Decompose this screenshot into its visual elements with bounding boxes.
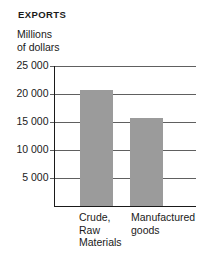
x-axis-line [54, 206, 197, 207]
x-label-crude-line-1: Crude, [79, 211, 122, 224]
y-axis-unit-line-2: of dollars [17, 41, 60, 54]
x-label-manufactured-goods: Manufactured goods [131, 211, 195, 236]
x-label-crude-raw-materials: Crude, Raw Materials [79, 211, 122, 249]
gridline-5000 [54, 178, 197, 179]
gridline-10000 [54, 150, 197, 151]
bar-crude-raw-materials [80, 90, 113, 206]
y-tick-label-20000: 20 000 [1, 88, 49, 99]
exports-bar-chart: EXPORTS Millions of dollars 25 000 20 00… [0, 0, 214, 264]
y-tick-label-10000: 10 000 [1, 144, 49, 155]
gridline-25000 [54, 66, 197, 67]
y-tick-label-5000: 5 000 [1, 172, 49, 183]
y-axis-unit-caption: Millions of dollars [17, 28, 60, 53]
x-label-manufactured-line-1: Manufactured [131, 211, 195, 224]
gridline-15000 [54, 122, 197, 123]
y-tick-label-15000: 15 000 [1, 116, 49, 127]
bar-manufactured-goods [130, 118, 163, 206]
chart-title: EXPORTS [18, 9, 66, 20]
gridline-20000 [54, 94, 197, 95]
y-axis-line [54, 66, 55, 206]
x-label-crude-line-3: Materials [79, 236, 122, 249]
y-tick-label-25000: 25 000 [1, 60, 49, 71]
x-label-crude-line-2: Raw [79, 224, 122, 237]
y-axis-unit-line-1: Millions [17, 28, 60, 41]
x-label-manufactured-line-2: goods [131, 224, 195, 237]
plot-area: 25 000 20 000 15 000 10 000 5 000 [54, 66, 197, 206]
